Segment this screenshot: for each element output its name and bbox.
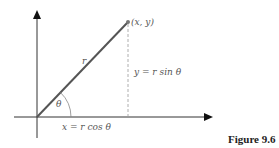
angle-label: θ (56, 99, 62, 109)
radius-line (37, 22, 128, 117)
point-marker (126, 20, 130, 24)
x-equation-label: x = r cos θ (62, 122, 111, 132)
angle-arc (61, 93, 72, 118)
y-equation-label: y = r sin θ (133, 67, 182, 77)
point-label: (x, y) (131, 17, 154, 27)
y-axis-arrow-icon (33, 10, 41, 19)
figure-caption: Figure 9.6 (228, 133, 276, 145)
radius-label: r (82, 56, 87, 66)
x-axis-arrow-icon (204, 113, 213, 121)
polar-coordinates-diagram: (x, y) r θ y = r sin θ x = r cos θ Figur… (0, 0, 279, 148)
